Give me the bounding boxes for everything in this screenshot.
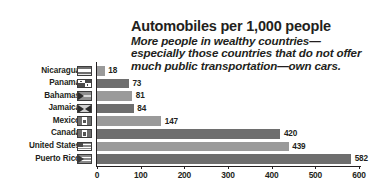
bar-category-label: Jamaica	[48, 103, 80, 112]
tick-label: 500	[309, 170, 322, 180]
bar-category-label: Canada	[51, 128, 80, 137]
bar-chart: Automobiles per 1,000 people More people…	[0, 0, 391, 192]
bar-row: Mexico147	[0, 115, 391, 128]
bar-row: Panama73	[0, 78, 391, 91]
bar-value-label: 420	[284, 129, 297, 138]
bar-value-label: 81	[136, 91, 145, 100]
tick-label: 600	[352, 170, 365, 180]
tick-label: 0	[95, 170, 99, 180]
bar	[97, 154, 351, 164]
bar	[97, 104, 134, 114]
flag-icon-canada	[77, 129, 92, 139]
bar-value-label: 439	[292, 142, 305, 151]
bar-row: Bahamas81	[0, 90, 391, 103]
tick-label: 400	[265, 170, 278, 180]
bar-value-label: 147	[165, 117, 178, 126]
x-axis-ticks: 0100200300400500600	[0, 166, 391, 184]
tick-label: 200	[178, 170, 191, 180]
bar-category-label: United States	[29, 141, 80, 150]
flag-icon-nicaragua	[77, 66, 92, 76]
tick-label: 300	[221, 170, 234, 180]
bar	[97, 116, 161, 126]
bar-row: Puerto Rico582	[0, 153, 391, 166]
flag-icon-bahamas	[77, 91, 92, 101]
bar	[97, 129, 280, 139]
bar-row: Canada420	[0, 128, 391, 141]
bar-row: Jamaica84	[0, 103, 391, 116]
tick-label: 100	[134, 170, 147, 180]
bar-value-label: 18	[108, 66, 117, 75]
bar-category-label: Bahamas	[44, 91, 80, 100]
bar-value-label: 73	[132, 79, 141, 88]
bar	[97, 142, 289, 152]
bar-value-label: 582	[355, 154, 368, 163]
flag-icon-panama	[77, 79, 92, 89]
chart-title: Automobiles per 1,000 people	[131, 18, 389, 34]
bar-row: Nicaragua18	[0, 65, 391, 78]
flag-icon-mexico	[77, 116, 92, 126]
bar-category-label: Mexico	[53, 116, 80, 125]
bar	[97, 66, 105, 76]
bar-value-label: 84	[137, 104, 146, 113]
plot-area: Nicaragua18Panama73Bahamas81Jamaica84Mex…	[0, 62, 391, 174]
bar-category-label: Nicaragua	[41, 66, 80, 75]
flag-icon-united-states	[77, 142, 92, 152]
bar-category-label: Puerto Rico	[35, 154, 80, 163]
bar-rows: Nicaragua18Panama73Bahamas81Jamaica84Mex…	[0, 65, 391, 166]
flag-icon-puerto-rico	[77, 154, 92, 164]
bar-category-label: Panama	[49, 78, 80, 87]
bar	[97, 91, 132, 101]
bar	[97, 79, 129, 89]
flag-icon-jamaica	[77, 104, 92, 114]
bar-row: United States439	[0, 141, 391, 154]
